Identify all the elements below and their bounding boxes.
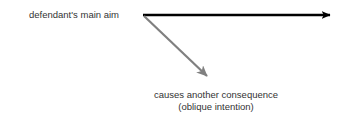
diagram-canvas: defendant's main aim causes another cons… [0,0,350,124]
main-aim-label: defendant's main aim [29,9,119,21]
consequence-label-line1: causes another consequence [154,89,278,100]
consequence-label-line2: (oblique intention) [145,101,287,113]
diagonal-arrow [144,16,207,76]
consequence-label: causes another consequence (oblique inte… [145,89,287,113]
